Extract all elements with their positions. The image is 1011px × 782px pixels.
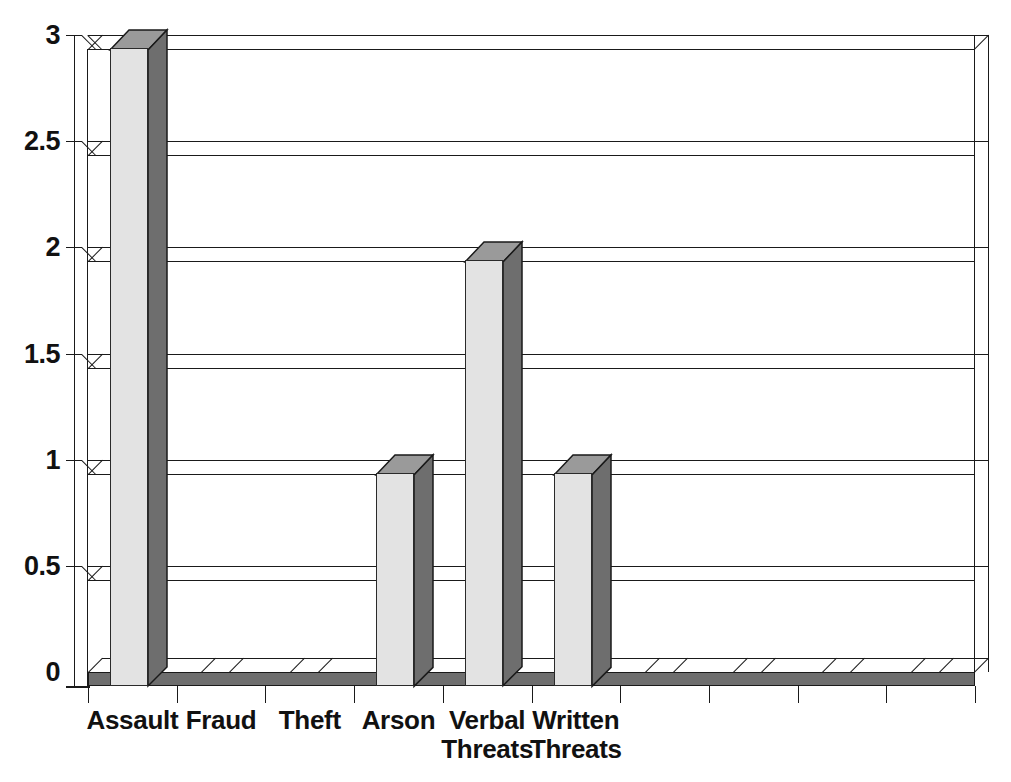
y-axis-tick (66, 247, 82, 248)
floor-left-depth-edge (88, 658, 103, 673)
y-axis-zero-tick (66, 686, 90, 688)
zero-bar-footprint (733, 658, 748, 673)
gridline-back (88, 141, 989, 142)
zero-bar-footprint (850, 658, 865, 673)
bar-side-face (148, 30, 168, 686)
zero-bar-footprint (645, 658, 660, 673)
y-axis-label: 1 (0, 447, 60, 474)
x-axis-tick (177, 686, 178, 703)
floor-back-edge (102, 658, 989, 659)
zero-bar-footprint (201, 658, 216, 673)
zero-bar-footprint (290, 658, 305, 673)
y-axis-label: 3 (0, 22, 60, 49)
gridline (88, 261, 975, 262)
plot-right-edge (974, 35, 975, 686)
x-axis-tick (354, 686, 355, 703)
bar-front-face (110, 48, 148, 686)
x-axis-tick (620, 686, 621, 703)
x-axis-tick (532, 686, 533, 703)
y-axis-tick (66, 354, 82, 355)
zero-bar-footprint (939, 658, 954, 673)
y-axis-wall (74, 35, 88, 686)
y-axis-label: 2.5 (0, 128, 60, 155)
gridline-back (88, 354, 989, 355)
x-axis-label-written-threats: Written Threats (496, 706, 656, 764)
bar-written-threats[interactable] (554, 455, 592, 686)
x-axis-tick (443, 686, 444, 703)
zero-bar-footprint (229, 658, 244, 673)
bar-verbal-threats[interactable] (465, 242, 503, 686)
bar-top-face (376, 455, 414, 474)
plot-corner-top-right-depth (974, 35, 989, 50)
gridline-back (88, 35, 989, 36)
y-axis-label: 2 (0, 234, 60, 261)
bar-assault[interactable] (110, 30, 148, 686)
y-axis-tick (66, 460, 82, 461)
gridline (88, 155, 975, 156)
gridline-depth-connector (88, 460, 103, 475)
zero-bar-footprint (911, 658, 926, 673)
bar-front-face (554, 473, 592, 686)
bar-chart: 32.521.510.50 AssaultFraudTheftArsonVerb… (0, 0, 1011, 782)
zero-bar-footprint (822, 658, 837, 673)
y-axis-outer-edge (74, 35, 75, 686)
bar-front-face (465, 260, 503, 686)
gridline (88, 474, 975, 475)
bar-side-face (503, 242, 523, 686)
y-axis-label: 1.5 (0, 341, 60, 368)
y-axis-label: 0 (0, 659, 60, 686)
bar-top-face (110, 30, 148, 49)
x-axis-tick (265, 686, 266, 703)
bar-side-face (592, 455, 612, 686)
gridline-back (88, 566, 989, 567)
bar-side-face (414, 455, 434, 686)
y-axis-tick (66, 566, 82, 567)
gridline (88, 368, 975, 369)
zero-bar-footprint (318, 658, 333, 673)
floor-slab (88, 672, 975, 686)
y-axis-label: 0.5 (0, 553, 60, 580)
x-axis-tick (886, 686, 887, 703)
y-axis-tick (66, 141, 82, 142)
zero-bar-footprint (673, 658, 688, 673)
gridline-depth-connector (88, 353, 103, 368)
gridline-depth-connector (88, 566, 103, 581)
y-axis-tick (66, 35, 82, 36)
zero-bar-footprint (761, 658, 776, 673)
bar-top-face (465, 242, 503, 261)
bar-arson[interactable] (376, 455, 414, 686)
bar-front-face (376, 473, 414, 686)
x-axis-tick (975, 686, 976, 703)
gridline (88, 49, 975, 50)
gridline (88, 580, 975, 581)
gridline-back (88, 247, 989, 248)
x-axis-tick (709, 686, 710, 703)
x-axis-tick (88, 686, 89, 703)
bar-top-face (554, 455, 592, 474)
x-axis-tick (798, 686, 799, 703)
floor-right-depth-edge (974, 658, 989, 673)
gridline-back (88, 460, 989, 461)
